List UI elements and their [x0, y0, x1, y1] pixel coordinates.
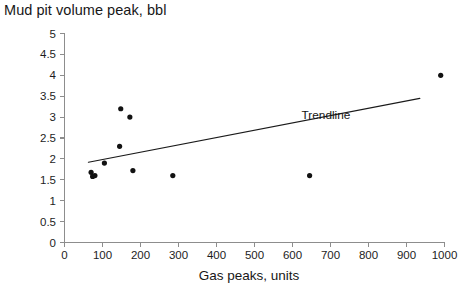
- data-point: [170, 173, 175, 178]
- y-axis-ticks: 0 0.5 1 1.5 2 2.5 3 3.5 4 4.5 5: [40, 28, 65, 249]
- trendline-label: Trendline: [302, 108, 351, 122]
- data-point: [92, 173, 97, 178]
- x-tick-label: 0: [61, 249, 67, 261]
- x-axis-title: Gas peaks, units: [0, 268, 466, 284]
- trendline: [88, 98, 419, 162]
- data-point: [438, 73, 443, 78]
- x-tick-label: 700: [321, 249, 340, 261]
- x-tick-label: 100: [93, 249, 112, 261]
- y-tick-label: 3.5: [40, 90, 56, 102]
- x-axis-title-text: Gas peaks, units: [199, 268, 300, 283]
- chart-figure: Mud pit volume peak, bbl 0 0.5 1 1.5 2 2…: [0, 0, 466, 293]
- y-tick-label: 2.5: [40, 132, 56, 144]
- scatter-plot: 0 0.5 1 1.5 2 2.5 3 3.5 4 4.5 5 0: [0, 0, 466, 293]
- data-point: [130, 168, 135, 173]
- y-tick-label: 0.5: [40, 216, 56, 228]
- data-point: [102, 160, 107, 165]
- data-point: [127, 115, 132, 120]
- x-tick-label: 300: [169, 249, 188, 261]
- x-axis-ticks: 0 100 200 300 400 500 600 700 800 900 10…: [61, 243, 457, 262]
- data-point: [118, 106, 123, 111]
- y-tick-label: 3: [50, 111, 56, 123]
- x-tick-label: 200: [131, 249, 150, 261]
- y-tick-label: 4: [50, 69, 57, 81]
- x-tick-label: 600: [283, 249, 302, 261]
- y-tick-label: 4.5: [40, 48, 56, 60]
- y-tick-label: 5: [50, 28, 56, 40]
- data-point-group: [89, 73, 444, 179]
- data-point: [307, 173, 312, 178]
- x-tick-label: 400: [207, 249, 226, 261]
- y-tick-label: 0: [50, 237, 56, 249]
- x-tick-label: 1000: [432, 249, 458, 261]
- x-tick-label: 500: [245, 249, 264, 261]
- y-tick-label: 1.5: [40, 174, 56, 186]
- y-tick-label: 2: [50, 153, 56, 165]
- y-tick-label: 1: [50, 195, 56, 207]
- x-tick-label: 800: [359, 249, 378, 261]
- data-point: [117, 144, 122, 149]
- x-tick-label: 900: [397, 249, 416, 261]
